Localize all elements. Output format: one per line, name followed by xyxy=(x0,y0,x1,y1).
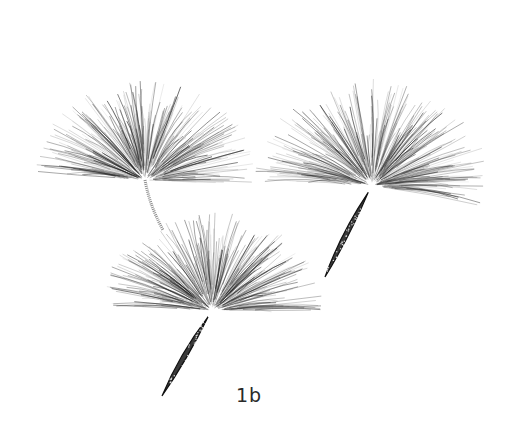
achene xyxy=(162,317,208,396)
dandelion-seeds-illustration xyxy=(0,0,532,430)
achene xyxy=(325,192,368,277)
seed-group xyxy=(37,79,484,396)
figure-label: 1b xyxy=(236,384,262,406)
seed-bottom xyxy=(107,213,321,396)
seed-top-left xyxy=(37,81,253,230)
stalk xyxy=(145,180,163,230)
seed-right xyxy=(256,79,484,277)
